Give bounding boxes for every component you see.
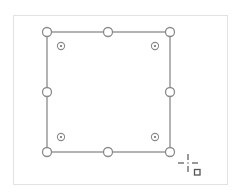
resize-handle-top-right[interactable]	[166, 28, 175, 37]
selection-overlay	[0, 0, 242, 196]
resize-handle-middle-right[interactable]	[166, 88, 175, 97]
corner-radius-handle-top-left[interactable]	[57, 42, 64, 49]
resize-handle-middle-left[interactable]	[43, 88, 52, 97]
selected-rectangle-shape[interactable]	[47, 32, 170, 152]
resize-handle-top-middle[interactable]	[104, 28, 113, 37]
resize-handle-top-left[interactable]	[43, 28, 52, 37]
resize-handle-bottom-middle[interactable]	[104, 148, 113, 157]
corner-radius-handle-bottom-left[interactable]	[57, 133, 64, 140]
crosshair-rectangle-cursor-icon	[178, 154, 200, 175]
corner-radius-handle-top-right[interactable]	[151, 42, 158, 49]
resize-handle-bottom-right[interactable]	[166, 148, 175, 157]
resize-handle-bottom-left[interactable]	[43, 148, 52, 157]
corner-radius-handles	[57, 42, 158, 140]
corner-radius-handle-bottom-right[interactable]	[151, 133, 158, 140]
